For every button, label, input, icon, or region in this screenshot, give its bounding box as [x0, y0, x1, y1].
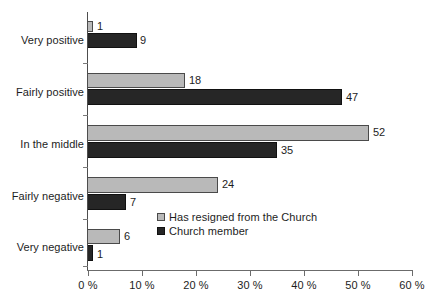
x-axis-label-40: 40 % — [291, 279, 316, 292]
bar-value-member-very-negative: 1 — [97, 248, 103, 260]
x-axis-tick-40 — [304, 271, 305, 276]
bar-member-fairly-positive — [88, 89, 342, 105]
bar-resigned-fairly-negative — [88, 177, 218, 193]
x-axis-label-10: 10 % — [129, 279, 154, 292]
legend-swatch-light-gray-square-icon — [157, 213, 165, 221]
bar-value-resigned-in-the-middle: 52 — [373, 126, 385, 138]
x-axis-tick-60 — [412, 271, 413, 276]
bar-value-member-fairly-negative: 7 — [130, 196, 136, 208]
bar-value-resigned-fairly-negative: 24 — [222, 178, 234, 190]
x-axis-tick-0 — [88, 271, 89, 276]
bar-value-member-in-the-middle: 35 — [281, 144, 293, 156]
x-axis-label-0: 0 % — [78, 279, 97, 292]
x-axis-label-30: 30 % — [237, 279, 262, 292]
bar-value-resigned-fairly-positive: 18 — [189, 74, 201, 86]
horizontal-bar-chart: Very positive Fairly positive In the mid… — [0, 0, 431, 305]
x-axis-label-20: 20 % — [183, 279, 208, 292]
y-axis-label-fairly-negative: Fairly negative — [12, 190, 84, 202]
x-axis-tick-50 — [358, 271, 359, 276]
bar-member-very-negative — [88, 245, 93, 261]
y-axis-label-very-positive: Very positive — [21, 34, 84, 46]
bar-resigned-very-negative — [88, 229, 120, 244]
x-axis-tick-10 — [142, 271, 143, 276]
legend-item-resigned: Has resigned from the Church — [157, 210, 317, 224]
bar-value-resigned-very-positive: 1 — [97, 20, 103, 32]
bar-member-very-positive — [88, 33, 137, 48]
bar-resigned-fairly-positive — [88, 73, 185, 88]
chart-legend: Has resigned from the Church Church memb… — [157, 210, 317, 238]
y-axis-label-fairly-positive: Fairly positive — [16, 86, 84, 98]
legend-item-member: Church member — [157, 224, 317, 238]
legend-label-resigned: Has resigned from the Church — [169, 210, 317, 224]
bar-member-fairly-negative — [88, 194, 126, 210]
x-axis-tick-20 — [196, 271, 197, 276]
bar-resigned-in-the-middle — [88, 125, 369, 141]
bar-value-member-fairly-positive: 47 — [346, 91, 358, 103]
y-axis-label-very-negative: Very negative — [17, 241, 84, 253]
legend-swatch-dark-square-icon — [157, 227, 165, 235]
bar-resigned-very-positive — [88, 21, 93, 32]
x-axis-label-60: 60 % — [399, 279, 424, 292]
bar-value-member-very-positive: 9 — [140, 34, 146, 46]
bar-member-in-the-middle — [88, 142, 277, 158]
bar-value-resigned-very-negative: 6 — [124, 230, 130, 242]
x-axis-label-50: 50 % — [345, 279, 370, 292]
x-axis-tick-30 — [250, 271, 251, 276]
y-axis-label-in-the-middle: In the middle — [20, 138, 84, 150]
legend-label-member: Church member — [169, 224, 249, 238]
